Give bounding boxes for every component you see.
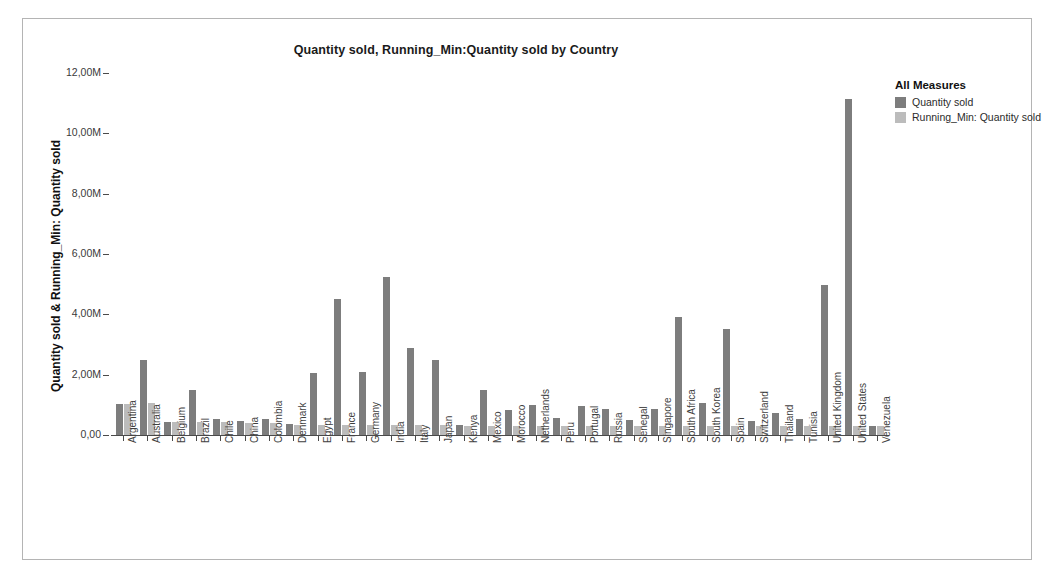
x-axis-tick-mark — [415, 436, 416, 441]
bar-group[interactable] — [600, 73, 618, 435]
bar-quantity-sold[interactable] — [286, 424, 293, 435]
y-axis-tick-label: 4,00M — [31, 307, 101, 319]
x-axis-tick-label: Thailand — [784, 405, 795, 443]
bar-quantity-sold[interactable] — [796, 419, 803, 435]
x-axis-tick-label: Russia — [613, 412, 624, 443]
x-axis-tick-label: Germany — [370, 402, 381, 443]
bar-quantity-sold[interactable] — [310, 373, 317, 435]
bar-quantity-sold[interactable] — [845, 99, 852, 435]
bar-group[interactable] — [844, 73, 862, 435]
bar-quantity-sold[interactable] — [821, 285, 828, 435]
y-axis-tick-mark — [103, 194, 109, 195]
bar-quantity-sold[interactable] — [262, 419, 269, 435]
bar-quantity-sold[interactable] — [675, 317, 682, 435]
bar-group[interactable] — [114, 73, 132, 435]
bar-group[interactable] — [795, 73, 813, 435]
x-axis-tick-mark — [853, 436, 854, 441]
bar-group[interactable] — [649, 73, 667, 435]
bar-quantity-sold[interactable] — [553, 418, 560, 435]
bar-quantity-sold[interactable] — [116, 404, 123, 435]
bar-group[interactable] — [479, 73, 497, 435]
bar-group[interactable] — [552, 73, 570, 435]
x-axis-tick-mark — [755, 436, 756, 441]
x-axis-tick-mark — [536, 436, 537, 441]
bar-group[interactable] — [868, 73, 886, 435]
bar-quantity-sold[interactable] — [651, 409, 658, 435]
bar-quantity-sold[interactable] — [723, 329, 730, 435]
bar-group[interactable] — [357, 73, 375, 435]
bar-quantity-sold[interactable] — [772, 413, 779, 435]
y-axis-tick-mark — [103, 254, 109, 255]
bar-quantity-sold[interactable] — [407, 348, 414, 435]
bar-group[interactable] — [284, 73, 302, 435]
bar-quantity-sold[interactable] — [213, 419, 220, 435]
x-axis-tick-label: Japan — [443, 416, 454, 443]
legend-item[interactable]: Running_Min: Quantity sold — [895, 111, 1056, 123]
bar-group[interactable] — [746, 73, 764, 435]
bar-quantity-sold[interactable] — [505, 410, 512, 435]
bar-quantity-sold[interactable] — [456, 425, 463, 435]
bar-group[interactable] — [309, 73, 327, 435]
x-axis-tick-label: Morocco — [516, 405, 527, 443]
legend-item-label: Quantity sold — [912, 96, 973, 108]
bar-quantity-sold[interactable] — [334, 299, 341, 435]
bar-group[interactable] — [503, 73, 521, 435]
y-axis-tick-mark — [103, 435, 109, 436]
y-axis-tick-label: 10,00M — [31, 126, 101, 138]
x-axis-tick-mark — [464, 436, 465, 441]
y-axis-ticks: 0,002,00M4,00M6,00M8,00M10,00M12,00M — [23, 19, 101, 559]
bar-quantity-sold[interactable] — [480, 390, 487, 435]
x-axis-tick-mark — [828, 436, 829, 441]
bar-quantity-sold[interactable] — [748, 421, 755, 435]
x-axis-tick-mark — [804, 436, 805, 441]
legend-swatch-icon — [895, 97, 906, 108]
plot-area — [111, 73, 889, 435]
x-axis-tick-label: Kenya — [468, 415, 479, 443]
x-axis-tick-label: Australia — [151, 404, 162, 443]
bar-group[interactable] — [625, 73, 643, 435]
bar-group[interactable] — [138, 73, 156, 435]
bar-quantity-sold[interactable] — [237, 421, 244, 435]
bar-group[interactable] — [771, 73, 789, 435]
bar-quantity-sold[interactable] — [869, 426, 876, 435]
legend-title: All Measures — [895, 79, 1056, 91]
bar-group[interactable] — [698, 73, 716, 435]
bar-group[interactable] — [382, 73, 400, 435]
bar-quantity-sold[interactable] — [578, 406, 585, 435]
x-axis-tick-label: Denmark — [297, 402, 308, 443]
bar-quantity-sold[interactable] — [359, 372, 366, 435]
bar-quantity-sold[interactable] — [626, 420, 633, 435]
bar-group[interactable] — [236, 73, 254, 435]
bar-group[interactable] — [406, 73, 424, 435]
bar-group[interactable] — [163, 73, 181, 435]
bar-group[interactable] — [722, 73, 740, 435]
x-axis-tick-mark — [609, 436, 610, 441]
legend-item-label: Running_Min: Quantity sold — [912, 111, 1041, 123]
x-axis-tick-label: Mexico — [492, 411, 503, 443]
bar-group[interactable] — [673, 73, 691, 435]
x-axis-tick-mark — [147, 436, 148, 441]
bar-group[interactable] — [333, 73, 351, 435]
bar-group[interactable] — [211, 73, 229, 435]
bar-group[interactable] — [430, 73, 448, 435]
bar-quantity-sold[interactable] — [529, 405, 536, 435]
x-axis-tick-label: Tunisia — [808, 411, 819, 443]
bar-group[interactable] — [455, 73, 473, 435]
bar-group[interactable] — [260, 73, 278, 435]
x-axis-tick-mark — [172, 436, 173, 441]
bar-quantity-sold[interactable] — [189, 390, 196, 435]
bar-quantity-sold[interactable] — [164, 422, 171, 435]
x-axis-tick-label: Peru — [565, 422, 576, 443]
bar-quantity-sold[interactable] — [432, 360, 439, 435]
bar-group[interactable] — [187, 73, 205, 435]
bar-quantity-sold[interactable] — [140, 360, 147, 435]
bar-group[interactable] — [527, 73, 545, 435]
x-axis-tick-label: Colombia — [273, 401, 284, 443]
bar-quantity-sold[interactable] — [699, 403, 706, 435]
legend-item[interactable]: Quantity sold — [895, 96, 1056, 108]
x-axis-tick-label: China — [249, 417, 260, 443]
bar-group[interactable] — [576, 73, 594, 435]
bar-quantity-sold[interactable] — [602, 409, 609, 435]
bar-quantity-sold[interactable] — [383, 277, 390, 435]
x-axis-tick-label: Spain — [735, 417, 746, 443]
